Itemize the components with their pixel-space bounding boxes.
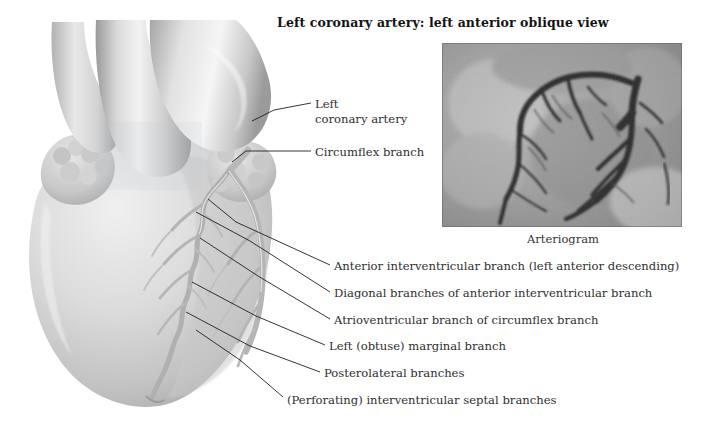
label-atrioventricular-branch: Atrioventricular branch of circumflex br… (334, 313, 598, 328)
label-anterior-interventricular-branch: Anterior interventricular branch (left a… (334, 259, 679, 274)
label-perforating-septal-branches: (Perforating) interventricular septal br… (287, 393, 557, 408)
arteriogram-image (442, 43, 682, 227)
heart-illustration (0, 4, 330, 427)
label-line-1: Left (315, 97, 407, 112)
label-diagonal-branches: Diagonal branches of anterior interventr… (334, 286, 652, 301)
label-posterolateral-branches: Posterolateral branches (324, 366, 464, 381)
label-left-coronary-artery: Left coronary artery (315, 97, 407, 127)
arteriogram-caption: Arteriogram (443, 232, 683, 246)
figure-page: Left coronary artery: left anterior obli… (0, 0, 726, 427)
label-line-2: coronary artery (315, 112, 407, 127)
label-left-obtuse-marginal-branch: Left (obtuse) marginal branch (329, 339, 506, 354)
label-circumflex-branch: Circumflex branch (315, 145, 424, 160)
